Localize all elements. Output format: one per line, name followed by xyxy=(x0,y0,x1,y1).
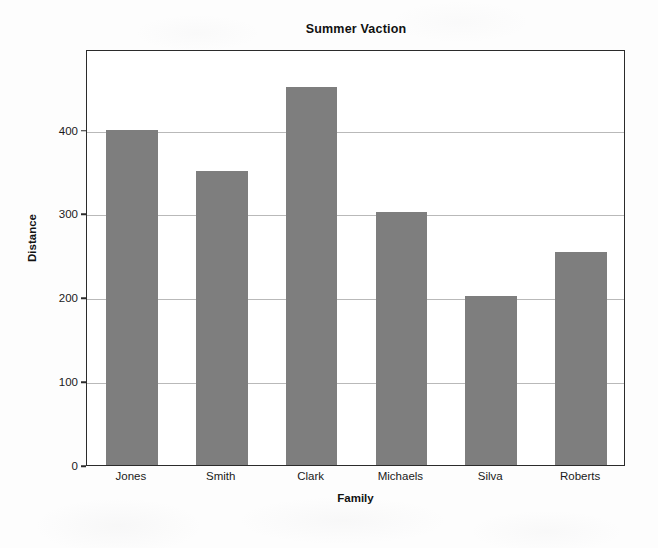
x-axis-tick-label: Roberts xyxy=(560,470,600,482)
y-axis-tick-mark xyxy=(81,214,86,216)
bar xyxy=(555,252,607,465)
y-axis-tick-label: 100 xyxy=(36,376,78,388)
x-axis-tick-label: Clark xyxy=(297,470,324,482)
y-axis-tick-mark xyxy=(81,130,86,132)
bar xyxy=(196,171,248,465)
y-axis-tick-mark xyxy=(81,298,86,300)
x-axis-title: Family xyxy=(86,492,625,504)
y-axis-tick-label: 0 xyxy=(36,460,78,472)
x-axis-tick-label: Michaels xyxy=(378,470,423,482)
x-axis-tick-label: Silva xyxy=(478,470,503,482)
x-axis-tick-label: Jones xyxy=(116,470,147,482)
chart-title: Summer Vaction xyxy=(86,22,626,36)
y-axis-tick-label: 200 xyxy=(36,292,78,304)
bar xyxy=(106,130,158,465)
x-axis-tick-label: Smith xyxy=(206,470,235,482)
y-axis-tick-mark xyxy=(81,465,86,467)
bar xyxy=(286,87,338,465)
bar xyxy=(376,212,428,465)
y-axis-tick-label: 300 xyxy=(36,208,78,220)
plot-area xyxy=(86,50,625,466)
bar xyxy=(465,296,517,465)
bar-series xyxy=(87,51,624,465)
y-axis-tick-label: 400 xyxy=(36,125,78,137)
bar-chart: Summer Vaction 0100200300400 Distance Jo… xyxy=(0,0,658,548)
y-axis-tick-mark xyxy=(81,381,86,383)
x-axis: JonesSmithClarkMichaelsSilvaRoberts xyxy=(86,470,625,490)
y-axis-title: Distance xyxy=(26,178,38,298)
